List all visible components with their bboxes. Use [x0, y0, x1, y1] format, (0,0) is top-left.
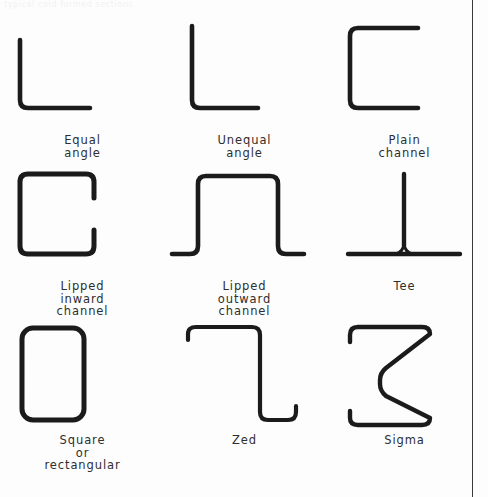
sigma-drawing: [326, 322, 483, 430]
unequal-angle-drawing: [166, 22, 323, 130]
zed-drawing: [166, 322, 323, 430]
diagram-sheet: typical cold formed sections Equal angle…: [0, 0, 488, 497]
lipped-outward-channel-drawing: [166, 168, 323, 276]
section-cell-sigma: Sigma: [326, 322, 483, 447]
tee-drawing: [326, 168, 483, 276]
lipped-inward-channel-drawing: [4, 168, 161, 276]
equal-angle-drawing: [4, 22, 161, 130]
section-cell-square-or-rectangular: Square or rectangular: [4, 322, 161, 472]
section-cell-zed: Zed: [166, 322, 323, 447]
section-cell-tee: Tee: [326, 168, 483, 293]
section-label-square-or-rectangular: Square or rectangular: [4, 434, 161, 472]
square-or-rectangular-drawing: [4, 322, 161, 430]
section-label-lipped-inward-channel: Lipped inward channel: [4, 280, 161, 318]
section-cell-equal-angle: Equal angle: [4, 22, 161, 159]
section-label-zed: Zed: [166, 434, 323, 447]
section-label-plain-channel: Plain channel: [326, 134, 483, 159]
section-label-sigma: Sigma: [326, 434, 483, 447]
section-cell-lipped-inward-channel: Lipped inward channel: [4, 168, 161, 318]
section-cell-lipped-outward-channel: Lipped outward channel: [166, 168, 323, 318]
section-cell-plain-channel: Plain channel: [326, 22, 483, 159]
section-cell-unequal-angle: Unequal angle: [166, 22, 323, 159]
section-label-tee: Tee: [326, 280, 483, 293]
section-label-lipped-outward-channel: Lipped outward channel: [166, 280, 323, 318]
section-label-unequal-angle: Unequal angle: [166, 134, 323, 159]
plain-channel-drawing: [326, 22, 483, 130]
section-grid: Equal angle Unequal angle Plain channel: [0, 0, 472, 497]
section-label-equal-angle: Equal angle: [4, 134, 161, 159]
